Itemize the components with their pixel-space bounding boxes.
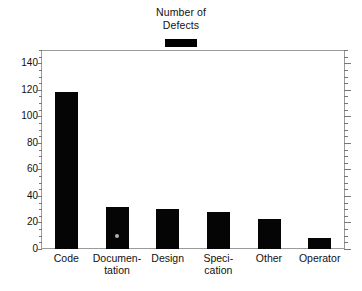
y-major-tick-right (344, 169, 351, 170)
y-axis-ticks-right (344, 50, 351, 250)
bar-documentation (106, 207, 129, 249)
defects-bar-chart: Number of Defects 020406080100120140 Cod… (0, 0, 362, 291)
x-axis-labels: CodeDocumen-tationDesignSpeci-cationOthe… (41, 252, 345, 288)
y-major-tick-right (344, 249, 351, 250)
bar-specification (207, 212, 230, 249)
y-tick-label: 100 (0, 111, 38, 121)
bar-design (156, 209, 179, 249)
y-major-tick-right (344, 116, 351, 117)
x-tick-label-line1: Documen- (93, 252, 141, 264)
scan-artifact-dot (115, 234, 119, 238)
y-tick-label: 40 (0, 191, 38, 201)
x-tick-label-documentation: Documen-tation (92, 252, 143, 276)
y-major-tick-right (344, 143, 351, 144)
legend-title-line-2: Defects (0, 19, 362, 32)
y-major-tick (36, 249, 42, 250)
y-major-tick-right (344, 196, 351, 197)
y-tick-label: 120 (0, 85, 38, 95)
y-major-tick-right (344, 63, 351, 64)
legend-title-line-1: Number of (0, 6, 362, 19)
chart-legend: Number of Defects (0, 6, 362, 51)
y-tick-label: 0 (0, 244, 38, 254)
x-tick-label-operator: Operator (294, 252, 345, 264)
x-tick-label-specification: Speci-cation (193, 252, 244, 276)
x-tick-label-other: Other (244, 252, 295, 264)
x-tick-label-line1: Operator (299, 252, 340, 264)
y-tick-label: 80 (0, 138, 38, 148)
x-tick-label-line1: Speci- (203, 252, 233, 264)
y-tick-label: 60 (0, 164, 38, 174)
x-tick-label-line1: Code (54, 252, 79, 264)
bar-operator (308, 238, 331, 249)
x-tick-label-line2: cation (193, 264, 244, 276)
bar-other (258, 219, 281, 250)
x-tick-label-line2: tation (92, 264, 143, 276)
y-tick-label: 140 (0, 58, 38, 68)
bars-layer (41, 50, 345, 249)
bar-code (55, 92, 78, 249)
x-tick-label-design: Design (142, 252, 193, 264)
legend-swatch-wrap (0, 33, 362, 51)
x-tick-label-code: Code (41, 252, 92, 264)
y-major-tick-right (344, 90, 351, 91)
x-tick-label-line1: Other (256, 252, 282, 264)
y-major-tick-right (344, 222, 351, 223)
y-tick-label: 20 (0, 217, 38, 227)
y-axis-labels: 020406080100120140 (0, 50, 38, 250)
legend-swatch-number-of-defects (165, 39, 197, 47)
x-tick-label-line1: Design (151, 252, 184, 264)
